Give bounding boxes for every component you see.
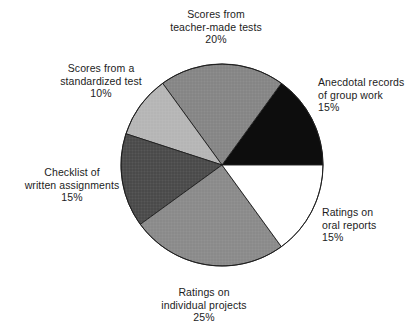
slice-label-percent: 15% <box>318 101 418 114</box>
slice-label-line-2: standardized test <box>38 75 164 88</box>
slice-label-line-1: Checklist of <box>6 166 138 179</box>
slice-label-line-1: Ratings on <box>128 286 280 299</box>
slice-label-line-1: Scores from a <box>38 62 164 75</box>
slice-label-standardized-test: Scores from a standardized test 10% <box>38 62 164 100</box>
slice-label-percent: 25% <box>128 311 280 324</box>
slice-label-line-1: Scores from <box>146 8 286 21</box>
slice-label-line-2: oral reports <box>322 219 416 232</box>
slice-label-line-2: of group work <box>318 89 418 102</box>
slice-label-line-1: Anecdotal records <box>318 76 418 89</box>
slice-label-teacher-made-tests: Scores from teacher-made tests 20% <box>146 8 286 46</box>
slice-label-percent: 15% <box>322 231 416 244</box>
pie-chart-figure: Scores from teacher-made tests 20% Anecd… <box>0 0 418 336</box>
slice-label-checklist-written-assignments: Checklist of written assignments 15% <box>6 166 138 204</box>
slice-label-oral-reports: Ratings on oral reports 15% <box>322 206 416 244</box>
slice-label-line-1: Ratings on <box>322 206 416 219</box>
slice-label-individual-projects: Ratings on individual projects 25% <box>128 286 280 324</box>
slice-label-percent: 20% <box>146 33 286 46</box>
slice-label-line-2: teacher-made tests <box>146 21 286 34</box>
slice-label-percent: 10% <box>38 87 164 100</box>
slice-label-percent: 15% <box>6 191 138 204</box>
slice-label-line-2: individual projects <box>128 299 280 312</box>
slice-label-line-2: written assignments <box>6 179 138 192</box>
slice-label-anecdotal-records: Anecdotal records of group work 15% <box>318 76 418 114</box>
